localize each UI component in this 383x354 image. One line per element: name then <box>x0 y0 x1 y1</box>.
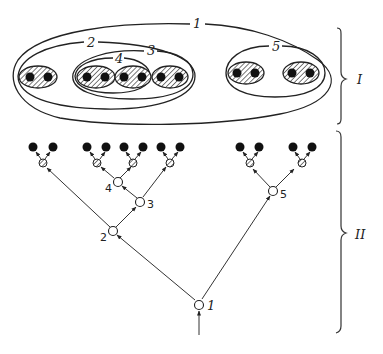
pair-d <box>152 66 188 88</box>
brace-II <box>336 131 346 333</box>
node-2-label: 2 <box>100 231 107 244</box>
pair-c <box>115 66 151 88</box>
node-4-label: 4 <box>105 182 112 195</box>
open-nodes <box>109 178 278 310</box>
pair-a <box>19 66 57 88</box>
brace-I <box>337 28 346 124</box>
part-I-label: I <box>356 72 363 87</box>
pair-b <box>77 66 115 88</box>
terminal-dots <box>29 143 317 152</box>
tree-edges <box>36 152 310 335</box>
hierarchy-diagram: 1 2 3 4 5 I <box>0 0 383 354</box>
hatched-pairs <box>19 62 319 88</box>
node-1 <box>195 301 204 310</box>
pair-f <box>283 62 319 84</box>
node-2 <box>109 227 118 236</box>
pair-e <box>228 62 264 84</box>
set-1-label: 1 <box>193 16 201 31</box>
set-3-label: 3 <box>147 43 155 58</box>
node-5 <box>269 187 278 196</box>
hatched-nodes <box>39 159 306 167</box>
node-1-label: 1 <box>207 298 215 313</box>
set-4-label: 4 <box>114 51 123 66</box>
part-II-label: II <box>354 227 366 242</box>
node-4 <box>114 178 123 187</box>
node-5-label: 5 <box>280 188 287 201</box>
node-3-label: 3 <box>147 198 154 211</box>
set-2-label: 2 <box>86 35 95 50</box>
set-5-label: 5 <box>272 39 280 54</box>
node-3 <box>136 198 145 207</box>
